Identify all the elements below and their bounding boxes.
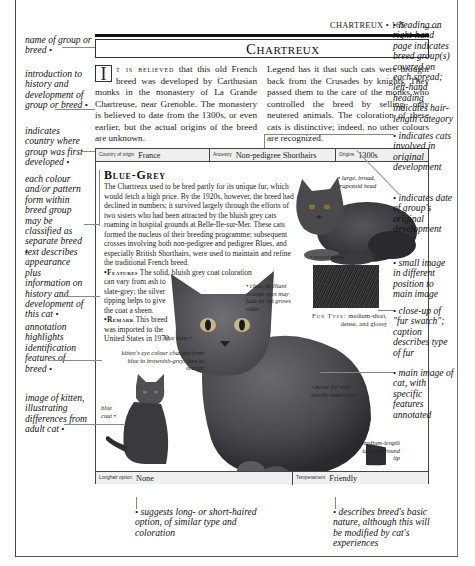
annotation-tail: • medium-length tail with round tip	[354, 439, 400, 462]
leader-line	[84, 224, 99, 225]
margin-note-colour-form: each colour and/or pattern form within b…	[25, 174, 87, 257]
intro-column-1: It is believed that this old French bree…	[95, 64, 257, 145]
intro-lead: t is believed	[116, 64, 174, 74]
country-of-origin: Country of originFrance	[96, 149, 206, 162]
leader-line	[64, 424, 124, 425]
title-rule	[95, 34, 429, 37]
margin-note-kitten: image of kitten, illustrating difference…	[25, 393, 93, 435]
info-bar-top: Country of originFrance AncestryNon-pedi…	[96, 149, 428, 162]
leader-line	[58, 296, 100, 297]
longhair-option: Longhair optionNone	[96, 472, 292, 485]
drop-cap: I	[95, 65, 112, 82]
margin-note-text-describes: text describes appearance plus informati…	[25, 247, 85, 320]
leader-line	[62, 47, 95, 48]
title-box: Chartreux	[95, 39, 429, 58]
annotation-fur: • dense fur with woolly undercoat	[311, 383, 356, 398]
info-bar-bottom: Longhair optionNone TemperamentFriendly	[96, 471, 428, 484]
annotation-kitten-eyes: kitten's eye colour changes from blue to…	[116, 349, 204, 372]
margin-note-annotation: annotation highlights identification fea…	[25, 322, 85, 374]
leader-line	[320, 372, 394, 373]
annotation-head: • large, broad, trapezoid head	[338, 174, 398, 189]
annotation-paws: • round paws	[310, 253, 360, 261]
margin-note-group-name: name of group or breed •	[25, 35, 95, 56]
annotation-eyes: • clear, brilliant orange eyes may fade …	[246, 282, 296, 312]
margin-note-ancestry: • indicates cats involved in original de…	[393, 131, 455, 173]
ancestry: AncestryNon-pedigree Shorthairs	[209, 149, 335, 162]
margin-note-country: indicates country where group was first …	[25, 126, 90, 168]
margin-note-longhair: • suggests long- or short-haired option,…	[135, 507, 260, 538]
leader-line	[99, 170, 100, 226]
leader-line	[378, 310, 394, 311]
leader-line	[82, 151, 95, 152]
leader-line	[52, 360, 102, 361]
breed-panel: Country of originFrance AncestryNon-pedi…	[95, 148, 429, 484]
leader-line	[264, 134, 394, 135]
margin-note-small-image: • small image in different position to m…	[393, 258, 455, 300]
margin-note-running-head: • heading on right-hand page indicates b…	[393, 20, 455, 124]
margin-note-origins-date: • indicates date of group's original dev…	[393, 193, 455, 235]
breed-name: Blue-Grey	[104, 168, 166, 183]
leader-line	[55, 109, 95, 110]
leader-line	[264, 134, 265, 148]
margin-note-fur-swatch: • close-up of "fur swatch"; caption desc…	[393, 306, 455, 358]
margin-note-main-image: • main image of cat, with specific featu…	[393, 368, 455, 420]
page-title: Chartreux	[246, 41, 320, 58]
annotation-blue-coat: blue coat •	[101, 404, 121, 419]
annotation-nose: blue nose •	[148, 334, 192, 342]
margin-note-temperament: • describes breed's basic nature, althou…	[333, 507, 433, 549]
kitten-image	[106, 374, 186, 469]
intro-text-1: that this old French breed was developed…	[95, 64, 257, 143]
temperament: TemperamentFriendly	[292, 472, 430, 485]
margin-note-introduction: introduction to history and development …	[25, 69, 95, 111]
breed-description: The Chartreux used to be bred partly for…	[104, 182, 299, 268]
